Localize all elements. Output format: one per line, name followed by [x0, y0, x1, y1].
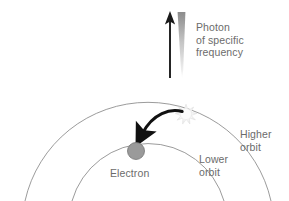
photon-emission-diagram: Photonof specificfrequency Higherorbit L…: [0, 0, 289, 201]
lower-orbit-label-line2: orbit: [199, 166, 220, 178]
photon-label-line2: of specific: [196, 34, 244, 46]
lower-orbit-label: Lowerorbit: [199, 153, 228, 178]
higher-orbit-label-line1: Higher: [240, 128, 272, 140]
photon-label-line1: Photon: [196, 21, 230, 33]
lower-orbit-label-line1: Lower: [199, 153, 228, 165]
higher-orbit-label-line2: orbit: [240, 141, 261, 153]
excited-state-sparkle: [175, 104, 197, 124]
photon-label-line3: frequency: [196, 46, 243, 58]
electron-particle: [128, 143, 145, 160]
photon-beam-gradient: [178, 12, 186, 78]
higher-orbit-arc: [25, 102, 271, 201]
photon-label: Photonof specificfrequency: [196, 21, 244, 59]
higher-orbit-label: Higherorbit: [240, 128, 272, 153]
electron-label: Electron: [110, 167, 149, 180]
